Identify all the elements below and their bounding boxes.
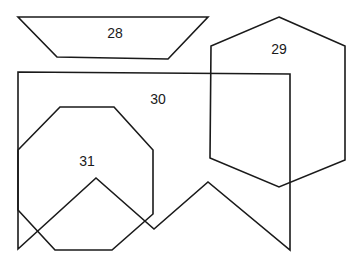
shape-28-label: 28	[107, 25, 123, 41]
shape-29-hexagon: 29	[210, 17, 345, 187]
shape-31-octagon: 31	[18, 107, 153, 250]
shape-30-zigzag-rectangle: 30	[18, 72, 290, 250]
shape-30-label: 30	[150, 91, 166, 107]
shape-31-label: 31	[79, 153, 95, 169]
shape-29-label: 29	[271, 41, 287, 57]
shape-28-trapezoid: 28	[18, 17, 208, 59]
shapes-diagram: 28 29 30 31	[0, 0, 361, 267]
